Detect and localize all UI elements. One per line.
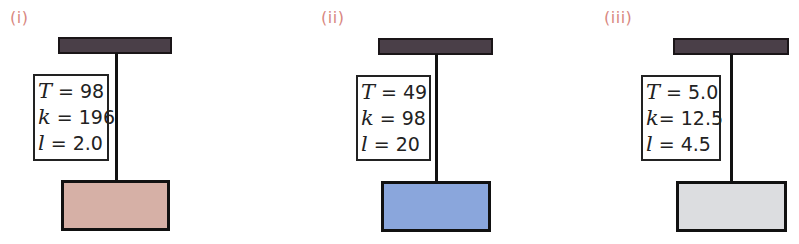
param-T: T = 5.0: [646, 79, 716, 105]
param-l: l = 4.5: [646, 131, 716, 157]
spring-string: [730, 54, 733, 182]
param-k: k= 12.5: [646, 105, 716, 131]
hanging-mass: [676, 181, 787, 232]
panel-iii: (iii) T = 5.0 k= 12.5 l = 4.5: [0, 0, 799, 244]
panel-label: (iii): [604, 8, 632, 27]
parameter-box: T = 5.0 k= 12.5 l = 4.5: [641, 75, 721, 161]
ceiling-support: [673, 38, 789, 55]
